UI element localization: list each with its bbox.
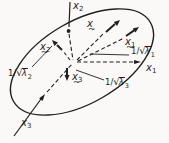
minor-axis-dashed-ray <box>63 51 70 60</box>
vector-x-dashed-ray <box>77 33 104 60</box>
semiaxis-length-2-label: 1/√λ2 <box>8 68 32 81</box>
axis-label-x3: x3 <box>21 118 31 130</box>
semiaxis-length-3-label: 1/√λ3 <box>105 77 129 90</box>
eigenvector-x3-label: x~3 <box>72 72 82 84</box>
x2-axis-hidden-dashed <box>69 34 73 60</box>
figure-canvas: x2 x1 x3 x~ x~1 x~2 x~3 1/√λ1 1/√λ2 1/√λ… <box>0 0 169 143</box>
eigenvector-x2-label: x~2 <box>40 42 50 54</box>
eigenvector-x3-arrowhead-icon <box>65 75 70 81</box>
x2-axis-pierce-dot <box>67 29 71 33</box>
major-axis-dashed-ray <box>78 38 124 61</box>
semiaxis-length-1-label: 1/√λ1 <box>131 46 155 59</box>
leader-line-lambda1 <box>90 54 129 55</box>
x2-axis-solid <box>69 2 70 27</box>
x1-axis-arrowhead-icon <box>134 60 141 64</box>
eigenvector-x2-arrow-shaft <box>57 45 62 50</box>
vector-x-label: x~ <box>87 19 93 31</box>
axis-label-x1: x1 <box>146 63 156 75</box>
vector-x-arrow-shaft <box>106 24 115 32</box>
axis-label-x2: x2 <box>73 1 83 13</box>
